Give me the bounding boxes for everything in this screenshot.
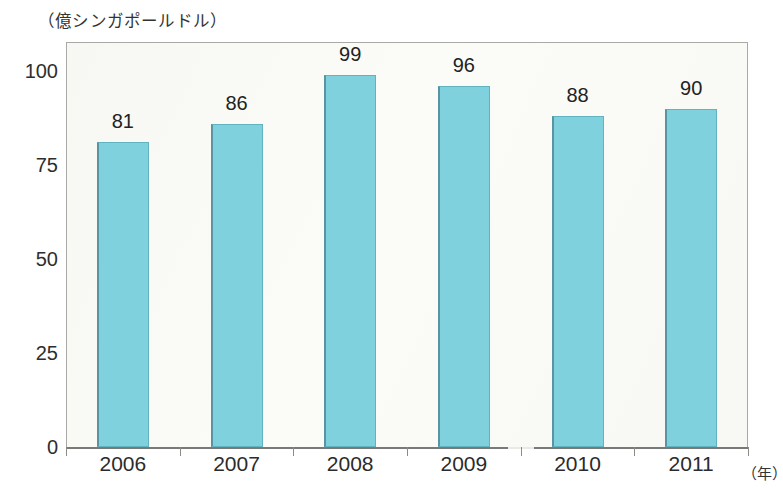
bar-value-label: 86 xyxy=(225,92,247,115)
x-axis-tick-mark xyxy=(521,447,522,456)
y-axis-tick-labels: 0255075100 xyxy=(0,0,58,489)
x-axis-tick-mark xyxy=(66,447,67,456)
x-axis-tick-mark xyxy=(407,447,408,456)
y-axis-tick-label: 100 xyxy=(25,60,58,83)
x-axis-tick-mark xyxy=(634,447,635,456)
x-axis-tick-mark xyxy=(180,447,181,456)
bar-value-label: 88 xyxy=(566,84,588,107)
x-axis-tick-label: 2007 xyxy=(213,452,260,476)
y-axis-tick-label: 50 xyxy=(36,248,58,271)
bar xyxy=(324,75,376,447)
x-axis-unit-caption: （年） xyxy=(742,462,783,483)
y-axis-tick-label: 75 xyxy=(36,154,58,177)
bar-chart: （億シンガポールドル） 0255075100 （年） 8120068620079… xyxy=(0,0,783,489)
bar-value-label: 90 xyxy=(680,77,702,100)
y-axis-unit-caption: （億シンガポールドル） xyxy=(38,8,227,32)
x-axis-tick-mark xyxy=(748,447,749,456)
x-axis-tick-label: 2006 xyxy=(99,452,146,476)
bars-layer xyxy=(66,42,748,447)
x-axis-tick-label: 2008 xyxy=(327,452,374,476)
bar-value-label: 81 xyxy=(112,110,134,133)
bar-value-label: 96 xyxy=(453,54,475,77)
bar xyxy=(438,86,490,447)
x-axis-tick-label: 2010 xyxy=(554,452,601,476)
x-axis-tick-mark xyxy=(293,447,294,456)
x-axis-tick-label: 2009 xyxy=(440,452,487,476)
bar xyxy=(665,109,717,447)
bar xyxy=(97,142,149,447)
y-axis-tick-label: 0 xyxy=(47,436,58,459)
x-axis-tick-label: 2011 xyxy=(669,452,714,476)
bar xyxy=(211,124,263,447)
bar-value-label: 99 xyxy=(339,43,361,66)
y-axis-tick-label: 25 xyxy=(36,342,58,365)
bar xyxy=(552,116,604,447)
